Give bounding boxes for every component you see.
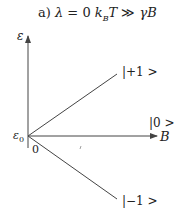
origin-label: ε0 xyxy=(13,130,24,144)
state-minus-one: |−1 > xyxy=(122,195,158,207)
zero-label: 0 xyxy=(32,144,39,155)
tick-mark xyxy=(80,146,81,149)
origin-sub: 0 xyxy=(19,135,24,144)
minus-one-line xyxy=(28,136,117,199)
energy-diagram xyxy=(0,0,180,222)
plus-one-line xyxy=(28,74,117,136)
state-zero: |0 > xyxy=(149,117,175,129)
state-plus-one: |+1 > xyxy=(122,66,158,78)
y-axis-label: ε xyxy=(17,30,23,42)
x-axis-label: B xyxy=(160,130,170,143)
